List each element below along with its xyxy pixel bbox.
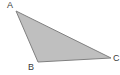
triangle-diagram — [0, 0, 120, 75]
vertex-label-a: A — [7, 1, 13, 10]
vertex-label-b: B — [28, 63, 34, 72]
triangle-figure: A B C — [0, 0, 120, 75]
vertex-label-c: C — [113, 54, 120, 63]
